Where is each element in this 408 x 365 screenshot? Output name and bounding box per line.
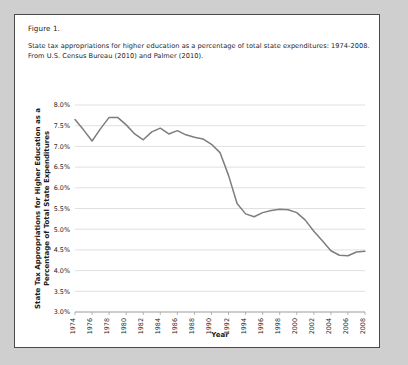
x-axis-tick-label: 1974 bbox=[69, 318, 77, 334]
x-axis-tick-label: 1994 bbox=[240, 318, 248, 334]
x-axis-tick-label: 1996 bbox=[257, 318, 265, 334]
x-axis-tick-label: 1984 bbox=[154, 318, 162, 334]
x-axis-tick-label: 1998 bbox=[274, 318, 282, 334]
x-axis-tick-label: 2008 bbox=[359, 318, 367, 334]
y-axis-title-line-1: State Tax Appropriations for Higher Educ… bbox=[34, 108, 42, 309]
y-axis-tick-label: 8.0% bbox=[54, 101, 70, 109]
figure-frame: Figure 1. State tax appropriations for h… bbox=[14, 14, 380, 348]
x-axis-tick-label: 1988 bbox=[188, 318, 196, 334]
y-axis-tick-label: 5.5% bbox=[54, 205, 70, 213]
y-axis-tick-label: 7.5% bbox=[54, 122, 70, 130]
data-series-line bbox=[75, 117, 365, 255]
y-axis-tick-label: 5.0% bbox=[54, 226, 70, 234]
y-axis-tick-label: 7.0% bbox=[54, 143, 70, 151]
y-axis-tick-label: 6.0% bbox=[54, 184, 70, 192]
chart-gridlines bbox=[75, 105, 365, 312]
figure-label: Figure 1. bbox=[28, 24, 366, 33]
x-axis-tick-label: 1982 bbox=[137, 318, 145, 334]
x-axis-tick-label: 2000 bbox=[291, 318, 299, 334]
figure-caption-line-1: State tax appropriations for higher educ… bbox=[28, 42, 366, 52]
chart-svg: 8.0%7.5%7.0%6.5%6.0%5.5%5.0%4.5%4.0%3.5%… bbox=[28, 75, 368, 339]
y-axis-tick-label: 4.5% bbox=[54, 246, 70, 254]
x-axis-tick-marks bbox=[75, 312, 365, 315]
line-chart: 8.0%7.5%7.0%6.5%6.0%5.5%5.0%4.5%4.0%3.5%… bbox=[28, 75, 368, 339]
y-axis-title-line-2: Percentage of Total State Expenditures bbox=[43, 131, 51, 286]
y-axis-tick-label: 3.5% bbox=[54, 288, 70, 296]
x-axis-tick-label: 2004 bbox=[325, 318, 333, 334]
x-axis-title: Year bbox=[210, 331, 229, 339]
x-axis-tick-label: 2006 bbox=[342, 318, 350, 334]
x-axis-tick-label: 1976 bbox=[86, 318, 94, 334]
x-axis-tick-label: 1986 bbox=[171, 318, 179, 334]
x-axis-tick-label: 1978 bbox=[103, 318, 111, 334]
y-axis-tick-label: 6.5% bbox=[54, 163, 70, 171]
figure-caption-line-2: From U.S. Census Bureau (2010) and Palme… bbox=[28, 52, 366, 62]
y-axis-tick-label: 4.0% bbox=[54, 267, 70, 275]
y-axis-tick-label: 3.0% bbox=[54, 308, 70, 316]
x-axis-tick-label: 1980 bbox=[120, 318, 128, 334]
y-axis-tick-labels: 8.0%7.5%7.0%6.5%6.0%5.5%5.0%4.5%4.0%3.5%… bbox=[54, 101, 70, 316]
x-axis-tick-label: 2002 bbox=[308, 318, 316, 334]
figure-caption-block: Figure 1. State tax appropriations for h… bbox=[28, 24, 366, 61]
